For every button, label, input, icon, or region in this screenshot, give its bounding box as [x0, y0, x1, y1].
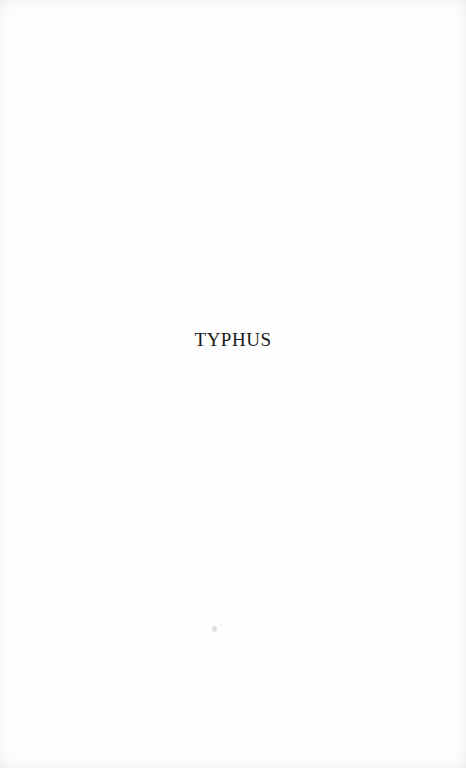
half-title: TYPHUS	[0, 329, 466, 351]
scan-speck	[212, 626, 217, 632]
book-page: TYPHUS	[0, 0, 466, 768]
